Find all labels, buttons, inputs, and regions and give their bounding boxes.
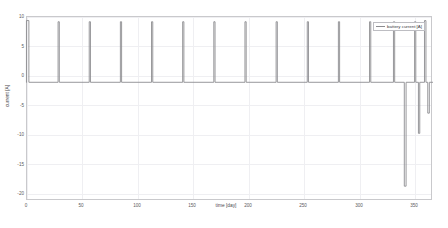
legend-label: battery current [A] <box>387 24 422 29</box>
x-tick-label: 50 <box>66 203 96 208</box>
y-tick-label: -20 <box>0 191 24 196</box>
y-tick-label: 5 <box>0 44 24 49</box>
legend-line-swatch <box>376 26 385 27</box>
plot-area: battery current [A] <box>26 16 432 200</box>
x-tick-label: 0 <box>11 203 41 208</box>
y-axis-label: current [A] <box>5 66 10 126</box>
x-axis-label: time [day] <box>196 203 256 208</box>
series-battery-current <box>27 17 433 201</box>
x-tick-label: 300 <box>344 203 374 208</box>
x-tick-label: 350 <box>399 203 429 208</box>
y-tick-label: 10 <box>0 14 24 19</box>
x-tick-label: 100 <box>122 203 152 208</box>
y-tick-label: -15 <box>0 162 24 167</box>
y-tick-label: -10 <box>0 132 24 137</box>
x-tick-label: 250 <box>288 203 318 208</box>
data-line <box>26 21 433 187</box>
figure: 10 5 0 -5 -10 -15 -20 current [A] <box>0 0 448 228</box>
legend[interactable]: battery current [A] <box>373 22 425 31</box>
